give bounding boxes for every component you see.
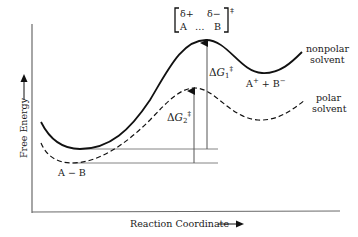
arrow-right-icon — [236, 221, 244, 228]
atom-a: A — [179, 21, 187, 32]
nonpolar-curve — [41, 40, 302, 149]
y-axis-label: Free Energy — [18, 97, 29, 158]
nonpolar-label-line1: nonpolar — [306, 43, 349, 54]
partial-bond-dots: … — [195, 21, 205, 32]
energy-diagram: Free Energy Reaction Coordinate ΔG1‡ ΔG2… — [0, 0, 358, 237]
polar-curve — [41, 88, 305, 163]
arrow-up-icon — [21, 74, 28, 82]
delta-g1-label-full: ΔG1‡ — [209, 65, 233, 80]
partial-positive: δ+ — [180, 8, 194, 19]
atom-b: B — [214, 21, 221, 32]
product-label: A+ + B− — [245, 77, 286, 89]
y-axis-label-group: Free Energy — [18, 74, 29, 158]
polar-label-line2: solvent — [312, 103, 347, 114]
partial-negative: δ− — [207, 8, 221, 19]
x-axis-label: Reaction Coordinate — [130, 218, 229, 229]
transition-state-label: δ+ δ− A … B ‡ — [175, 6, 234, 32]
double-dagger: ‡ — [230, 6, 234, 15]
delta-g2-label: ΔG2‡ — [167, 110, 191, 125]
reactant-label: A − B — [57, 167, 86, 178]
nonpolar-label-line2: solvent — [310, 54, 345, 65]
x-axis-label-group: Reaction Coordinate — [130, 218, 244, 229]
right-bracket — [224, 8, 228, 32]
left-bracket — [175, 8, 179, 32]
x-axis — [32, 211, 340, 212]
polar-label-line1: polar — [316, 92, 342, 103]
